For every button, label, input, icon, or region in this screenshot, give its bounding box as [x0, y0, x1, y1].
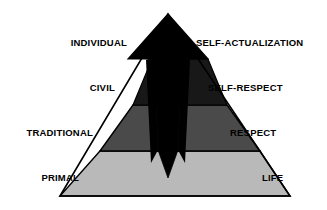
tier-label-self-respect: SELF-RESPECT [208, 83, 283, 93]
tier-label-respect: RESPECT [230, 128, 276, 138]
tier-label-individual: INDIVIDUAL [71, 38, 127, 48]
tier-label-life: LIFE [262, 173, 283, 183]
tier-label-self-actualization: SELF-ACTUALIZATION [196, 38, 303, 48]
tier-label-traditional: TRADITIONAL [26, 128, 93, 138]
tier-label-civil: CIVIL [90, 83, 115, 93]
pyramid-diagram: INDIVIDUAL CIVIL TRADITIONAL PRIMAL SELF… [0, 0, 327, 210]
tier-label-primal: PRIMAL [41, 173, 79, 183]
